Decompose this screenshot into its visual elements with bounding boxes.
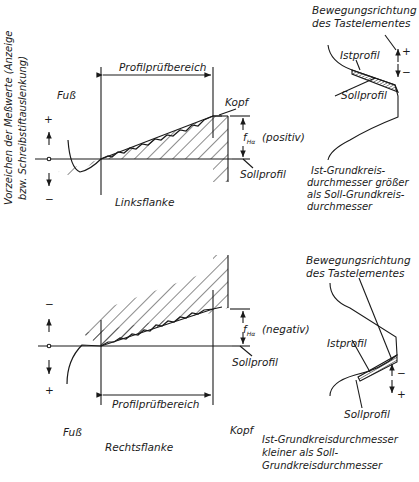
- bottom-flank-title: Rechtsflanke: [105, 441, 173, 453]
- bottom-actual-label: Istprofil: [327, 337, 367, 349]
- bottom-caption-1: Ist-Grundkreisdurchmesser: [262, 434, 398, 446]
- top-fha-label: fHα: [243, 131, 255, 148]
- bottom-fha-label: fHα: [243, 323, 255, 340]
- top-tooth-outline: [328, 45, 398, 160]
- top-actual-label: Istprofil: [340, 49, 380, 61]
- bottom-direction-label-2: des Tastelementes: [306, 267, 405, 279]
- top-caption-2: durchmesser größer: [307, 177, 409, 189]
- top-sign-minus: −: [45, 193, 54, 205]
- top-tooth-plus: +: [402, 45, 411, 57]
- top-sign-plus: +: [44, 113, 53, 125]
- bottom-tooth-plus: +: [397, 388, 406, 400]
- top-hatched-area: [58, 116, 228, 182]
- bottom-sign-minus: −: [45, 298, 54, 310]
- top-range-label: Profilprüfbereich: [119, 61, 206, 73]
- top-profile-chart: [35, 67, 253, 195]
- bottom-nominal-label: Sollprofil: [232, 356, 278, 368]
- bottom-caption-2: kleiner als Soll-: [262, 447, 338, 459]
- top-caption-4: durchmesser: [307, 201, 372, 213]
- bottom-range-label: Profilprüfbereich: [112, 398, 199, 410]
- top-deviation-sign: (positiv): [262, 131, 305, 143]
- top-tooth-nominal-label: Sollprofil: [341, 89, 387, 101]
- top-caption-3: als Soll-Grundkreis-: [307, 189, 404, 201]
- top-direction-label-2: des Tastelementes: [312, 17, 411, 29]
- axis-label-line1: Vorzeichen der Meßwerte (Anzeige: [3, 31, 15, 206]
- bottom-tooth-minus: −: [397, 367, 406, 379]
- bottom-deviation-sign: (negativ): [262, 323, 310, 335]
- top-tooth-minus: −: [402, 66, 411, 78]
- top-nominal-label: Sollprofil: [240, 168, 286, 180]
- bottom-root-label: Fuß: [63, 426, 82, 438]
- top-direction-label-1: Bewegungsrichtung: [312, 4, 417, 16]
- bottom-sign-plus: +: [45, 384, 54, 396]
- top-tip-label: Kopf: [225, 96, 248, 108]
- bottom-profile-chart: [38, 255, 252, 405]
- top-caption-1: Ist-Grundkreis-: [311, 165, 385, 177]
- top-flank-title: Linksflanke: [115, 196, 174, 208]
- bottom-direction-label-1: Bewegungsrichtung: [306, 254, 411, 266]
- bottom-tooth-nominal-label: Sollprofil: [344, 408, 390, 420]
- bottom-caption-3: Grundkreisdurchmesser: [262, 460, 382, 472]
- bottom-tip-label: Kopf: [230, 424, 253, 436]
- top-root-label: Fuß: [57, 89, 76, 101]
- axis-label-line2: bzw. Schreibstiftauslenkung): [17, 56, 29, 200]
